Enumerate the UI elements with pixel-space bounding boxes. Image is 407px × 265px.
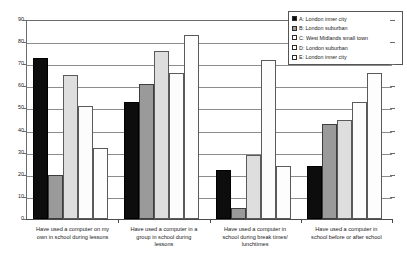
legend-label-E: E: London inner city xyxy=(299,54,347,60)
legend-swatch-C-icon xyxy=(292,35,297,40)
right-tick-mark-30 xyxy=(390,153,395,154)
right-tick-mark-20 xyxy=(390,175,395,176)
x-group-label-4: Have used a computer inschool before or … xyxy=(297,226,396,241)
y-axis: 0102030405060708090 xyxy=(0,0,24,265)
x-group-label-2-line-3: lessons xyxy=(114,241,213,249)
bar-chart: 0102030405060708090 Have used a computer… xyxy=(0,0,407,265)
right-tick-mark-70 xyxy=(390,64,395,65)
right-tick-mark-80 xyxy=(390,42,395,43)
legend-label-A: A: London inner city xyxy=(299,16,347,22)
bar-group1-series-C xyxy=(63,75,78,219)
x-group-label-2: Have used a computer in agroup in school… xyxy=(114,226,213,249)
legend-swatch-E-icon xyxy=(292,55,297,60)
bar-group1-series-A xyxy=(33,58,48,219)
legend-item-D: D: London suburban xyxy=(292,43,399,53)
bar-group4-series-D xyxy=(352,102,367,219)
bar-group3-series-E xyxy=(276,166,291,219)
y-tick-label-40: 40 xyxy=(2,128,24,133)
legend-swatch-A-icon xyxy=(292,16,297,21)
y-tick-label-90: 90 xyxy=(2,17,24,22)
legend-swatch-D-icon xyxy=(292,45,297,50)
right-tick-mark-40 xyxy=(390,131,395,132)
bar-group4-series-C xyxy=(337,120,352,220)
bar-group3-series-D xyxy=(261,60,276,219)
x-group-tick-3 xyxy=(301,219,302,223)
y-tick-label-10: 10 xyxy=(2,194,24,199)
y-tick-label-60: 60 xyxy=(2,83,24,88)
x-group-label-4-line-1: Have used a computer in xyxy=(297,226,396,234)
x-group-label-3-line-3: lunchtimes xyxy=(206,241,305,249)
x-group-label-1: Have used a computer on myown in school … xyxy=(23,226,122,241)
x-group-label-1-line-1: Have used a computer on my xyxy=(23,226,122,234)
x-group-label-3-line-1: Have used a computer in xyxy=(206,226,305,234)
bar-group2-series-A xyxy=(124,102,139,219)
x-group-label-2-line-2: group in school during xyxy=(114,234,213,242)
x-group-label-3: Have used a computer inschool during bre… xyxy=(206,226,305,249)
x-group-label-3-line-2: school during break times/ xyxy=(206,234,305,242)
legend-item-C: C: West Midlands small town xyxy=(292,33,399,43)
x-group-label-4-line-2: school before or after school xyxy=(297,234,396,242)
right-tick-mark-10 xyxy=(390,197,395,198)
x-group-label-2-line-1: Have used a computer in a xyxy=(114,226,213,234)
x-group-label-1-line-2: own in school during lessons xyxy=(23,234,122,242)
y-tick-label-70: 70 xyxy=(2,61,24,66)
legend-item-E: E: London inner city xyxy=(292,52,399,62)
legend-item-B: B: London suburban xyxy=(292,24,399,34)
y-tick-label-0: 0 xyxy=(2,216,24,221)
legend-item-A: A: London inner city xyxy=(292,14,399,24)
bar-group3-series-A xyxy=(216,170,231,219)
bar-group3-series-B xyxy=(231,208,246,219)
bar-group4-series-E xyxy=(367,73,382,219)
y-tick-label-80: 80 xyxy=(2,39,24,44)
legend-swatch-B-icon xyxy=(292,26,297,31)
y-tick-label-50: 50 xyxy=(2,105,24,110)
x-group-tick-2 xyxy=(210,219,211,223)
x-group-tick-4 xyxy=(392,219,393,223)
bar-group2-series-B xyxy=(139,84,154,219)
bar-group1-series-B xyxy=(48,175,63,219)
bar-group4-series-B xyxy=(322,124,337,219)
y-tick-label-30: 30 xyxy=(2,150,24,155)
bar-group1-series-D xyxy=(78,106,93,219)
right-tick-mark-50 xyxy=(390,108,395,109)
bar-group4-series-A xyxy=(307,166,322,219)
legend: A: London inner cityB: London suburbanC:… xyxy=(288,11,403,65)
y-tick-label-20: 20 xyxy=(2,172,24,177)
right-tick-mark-90 xyxy=(390,20,395,21)
bar-group2-series-D xyxy=(169,73,184,219)
bar-group1-series-E xyxy=(93,148,108,219)
legend-label-D: D: London suburban xyxy=(299,45,348,51)
right-tick-mark-60 xyxy=(390,86,395,87)
bar-group2-series-E xyxy=(184,35,199,219)
legend-label-B: B: London suburban xyxy=(299,25,348,31)
legend-label-C: C: West Midlands small town xyxy=(299,35,368,41)
bar-group3-series-C xyxy=(246,155,261,219)
bar-group2-series-C xyxy=(154,51,169,219)
x-group-tick-1 xyxy=(118,219,119,223)
